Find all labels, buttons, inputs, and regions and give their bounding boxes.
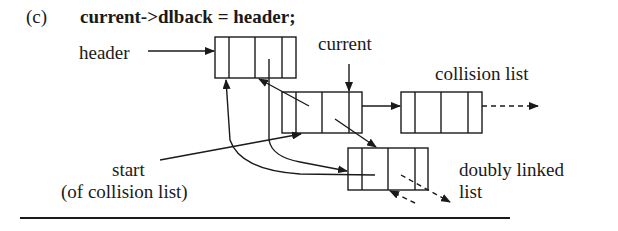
dll-dashed-next-arrow xyxy=(401,175,450,202)
dll-dashed-back-arrow xyxy=(390,191,415,203)
header-node xyxy=(215,37,296,78)
linked-list-diagram xyxy=(0,0,618,231)
doubly-linked-node xyxy=(348,148,428,190)
header-to-dll-curve xyxy=(269,59,347,171)
dll-to-header-curve xyxy=(226,80,375,175)
collision-next-node xyxy=(401,92,482,133)
